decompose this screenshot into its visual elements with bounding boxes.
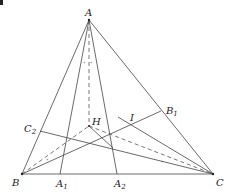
label-h: H (91, 116, 101, 127)
label-b1: B1 (165, 105, 178, 118)
label-b: B (11, 177, 19, 188)
point-h (88, 125, 90, 127)
point-c (212, 173, 214, 175)
angle-mark-c: ∘ (161, 158, 163, 164)
segment-i-c (118, 117, 213, 174)
label-c2: C2 (24, 123, 37, 136)
angle-mark-a-right: ∘ (90, 59, 92, 65)
cevian-a-a1 (60, 20, 89, 174)
geometry-diagram: ∘ ∘ ∘ ∘ A B C A1 A2 B1 C2 H I (0, 0, 239, 194)
cevian-a-a2 (89, 20, 117, 174)
segment-c-c2 (40, 131, 213, 174)
side-ac (89, 20, 213, 174)
label-a2: A2 (113, 178, 126, 191)
label-a1: A1 (55, 178, 68, 191)
point-b (21, 173, 23, 175)
label-c: C (216, 177, 224, 188)
segment-h-line (89, 126, 113, 148)
label-i: I (129, 112, 135, 123)
dashed-h-c (89, 126, 213, 174)
side-ab (22, 20, 89, 174)
label-a: A (84, 7, 92, 18)
point-a (88, 19, 90, 21)
angle-mark-a-left: ∘ (83, 59, 85, 65)
angle-mark-b: ∘ (46, 156, 48, 162)
